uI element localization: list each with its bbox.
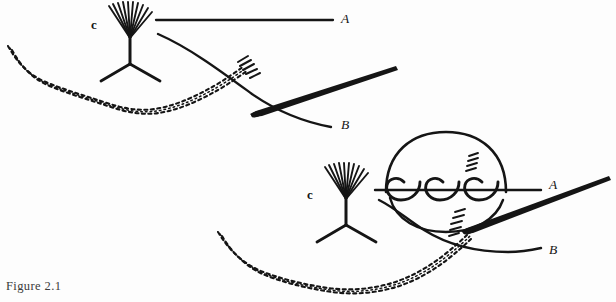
- bottom-strand-label-a: A: [549, 178, 557, 192]
- bottom-strand-label-b: B: [549, 243, 557, 257]
- tissue-edge-hatched: [8, 46, 248, 114]
- needle-holder-leg-right: [346, 225, 376, 242]
- figure-drawing-surface: [0, 0, 616, 302]
- top-instrument-tip-marker: c: [91, 18, 97, 31]
- suture-strand-b: [158, 34, 331, 127]
- needle-holder-fan: [101, 2, 160, 81]
- bottom-instrument-tip-marker: c: [307, 188, 313, 201]
- needle-holder-leg-right: [130, 64, 160, 81]
- surgical-needle: [250, 66, 398, 117]
- surgical-needle: [461, 176, 611, 234]
- figure-illustration: A B c A B c Figure 2.1: [0, 0, 616, 302]
- needle-entry-hatch: [466, 153, 478, 171]
- tissue-edge-hatched: [218, 232, 472, 293]
- bottom-panel: [218, 132, 611, 293]
- top-strand-label-a: A: [341, 12, 349, 26]
- figure-caption: Figure 2.1: [6, 279, 61, 294]
- needle-holder-fan: [317, 163, 376, 242]
- top-panel: [8, 2, 398, 127]
- needle-holder-leg-left: [101, 64, 130, 81]
- needle-holder-leg-left: [317, 225, 346, 242]
- suture-strand-b: [379, 200, 541, 252]
- top-strand-label-b: B: [341, 118, 349, 132]
